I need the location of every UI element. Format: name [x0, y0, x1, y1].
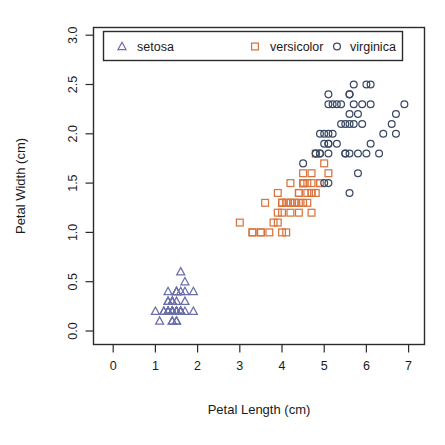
data-point-virginica [300, 160, 307, 167]
data-point-versicolor [300, 180, 307, 187]
plot-frame [94, 28, 425, 345]
data-point-versicolor [249, 229, 256, 236]
y-tick-label-0.0: 0.0 [66, 322, 80, 339]
data-point-virginica [325, 180, 332, 187]
data-point-versicolor [274, 219, 281, 226]
data-point-virginica [393, 130, 400, 137]
x-tick-label-3: 3 [236, 359, 243, 373]
data-point-setosa [156, 317, 164, 324]
data-point-versicolor [236, 219, 243, 226]
data-point-virginica [367, 81, 374, 88]
series-virginica-points [300, 81, 408, 196]
x-axis-ticks [113, 345, 408, 353]
data-point-versicolor [308, 209, 315, 216]
y-tick-label-2.5: 2.5 [66, 76, 80, 93]
data-point-setosa [181, 297, 189, 304]
data-point-virginica [346, 111, 353, 118]
x-tick-label-7: 7 [405, 359, 412, 373]
data-point-versicolor [270, 219, 277, 226]
data-point-virginica [388, 121, 395, 128]
y-tick-label-1.0: 1.0 [66, 224, 80, 241]
data-point-setosa [164, 287, 172, 294]
data-point-virginica [312, 150, 319, 157]
data-point-versicolor [295, 199, 302, 206]
data-point-virginica [355, 150, 362, 157]
data-point-versicolor [283, 229, 290, 236]
data-point-virginica [346, 121, 353, 128]
y-tick-label-0.5: 0.5 [66, 273, 80, 290]
data-point-versicolor [300, 199, 307, 206]
data-point-versicolor [300, 180, 307, 187]
data-point-versicolor [274, 190, 281, 197]
data-point-virginica [342, 150, 349, 157]
data-point-versicolor [279, 199, 286, 206]
data-point-versicolor [308, 170, 315, 177]
data-point-versicolor [279, 209, 286, 216]
y-axis-title: Petal Width (cm) [13, 138, 28, 234]
legend-label-versicolor: versicolor [270, 40, 324, 54]
data-point-virginica [321, 140, 328, 147]
data-point-versicolor [321, 160, 328, 167]
x-tick-label-4: 4 [279, 359, 286, 373]
data-point-versicolor [291, 199, 298, 206]
data-point-versicolor [308, 180, 315, 187]
data-point-virginica [338, 121, 345, 128]
data-point-versicolor [283, 199, 290, 206]
data-point-versicolor [304, 180, 311, 187]
data-point-versicolor [287, 199, 294, 206]
series-setosa-points [151, 268, 197, 325]
data-point-virginica [350, 101, 357, 108]
x-tick-label-2: 2 [194, 359, 201, 373]
data-point-setosa [189, 307, 197, 314]
data-point-versicolor [304, 199, 311, 206]
data-point-versicolor [291, 199, 298, 206]
data-point-virginica [350, 81, 357, 88]
data-point-virginica [376, 150, 383, 157]
x-tick-label-5: 5 [321, 359, 328, 373]
data-point-versicolor [266, 229, 273, 236]
data-point-virginica [338, 101, 345, 108]
data-point-virginica [359, 121, 366, 128]
data-point-setosa [177, 268, 185, 275]
data-point-virginica [333, 140, 340, 147]
legend-label-setosa: setosa [137, 40, 174, 54]
x-tick-label-1: 1 [152, 359, 159, 373]
x-axis-title: Petal Length (cm) [208, 402, 311, 417]
data-point-versicolor [283, 199, 290, 206]
data-point-virginica [329, 101, 336, 108]
chart-figure: 01234567 0.00.51.01.52.02.53.0 setosaver… [0, 0, 445, 445]
data-point-virginica [363, 150, 370, 157]
data-point-versicolor [304, 190, 311, 197]
data-point-versicolor [300, 180, 307, 187]
data-point-virginica [380, 130, 387, 137]
data-point-versicolor [279, 229, 286, 236]
data-point-versicolor [287, 209, 294, 216]
data-point-versicolor [325, 170, 332, 177]
x-tick-label-6: 6 [363, 359, 370, 373]
data-point-versicolor [308, 190, 315, 197]
data-point-virginica [329, 130, 336, 137]
data-point-virginica [346, 91, 353, 98]
scatter-plot: 01234567 0.00.51.01.52.02.53.0 setosaver… [0, 0, 445, 445]
data-point-versicolor [287, 199, 294, 206]
data-point-virginica [346, 190, 353, 197]
data-point-virginica [393, 111, 400, 118]
y-axis-tick-labels: 0.00.51.01.52.02.53.0 [66, 26, 80, 339]
data-point-setosa [181, 277, 189, 284]
data-point-virginica [325, 150, 332, 157]
y-tick-label-1.5: 1.5 [66, 174, 80, 191]
data-point-versicolor [300, 170, 307, 177]
data-point-versicolor [300, 180, 307, 187]
data-point-versicolor [295, 190, 302, 197]
data-point-virginica [325, 91, 332, 98]
data-point-virginica [401, 101, 408, 108]
data-point-virginica [355, 170, 362, 177]
series-versicolor-points [236, 150, 331, 236]
data-point-setosa [151, 307, 159, 314]
data-point-virginica [367, 101, 374, 108]
x-axis-tick-labels: 01234567 [110, 359, 412, 373]
data-point-versicolor [249, 229, 256, 236]
chart-legend: setosaversicolorvirginica [104, 32, 403, 61]
data-point-virginica [317, 130, 324, 137]
y-tick-label-2.0: 2.0 [66, 125, 80, 142]
